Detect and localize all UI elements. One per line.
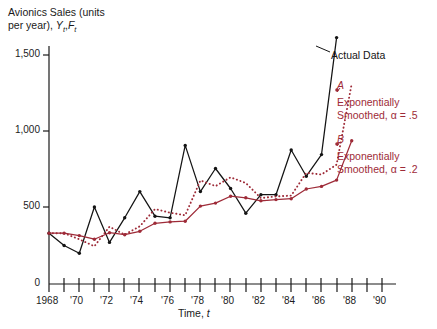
data-point [93, 238, 96, 241]
data-point [47, 232, 50, 235]
y-axis-ticks [43, 55, 49, 207]
annotation-series-a-line2: Smoothed, α = .5 [337, 109, 418, 122]
data-point [320, 185, 323, 188]
data-point [335, 178, 338, 181]
data-point [93, 205, 96, 208]
data-point [305, 175, 308, 178]
data-point [153, 222, 156, 225]
x-tick-label-1982: '82 [252, 295, 265, 306]
x-tick-label-1986: '86 [312, 295, 325, 306]
series-actual [47, 36, 338, 255]
data-point [199, 190, 202, 193]
chart-figure: Avionics Sales (unitsper year), Yt,Ft [0, 0, 437, 329]
series-line [49, 38, 337, 254]
data-point [305, 187, 308, 190]
data-point [274, 198, 277, 201]
data-point [290, 197, 293, 200]
data-point [62, 232, 65, 235]
leader-actual-data [316, 46, 330, 52]
x-tick-label-1972: '72 [100, 295, 113, 306]
x-tick-label-1990: '90 [373, 295, 386, 306]
annotation-actual-data: Actual Data [331, 49, 385, 62]
data-point [123, 233, 126, 236]
data-point [138, 230, 141, 233]
data-point [78, 252, 81, 255]
data-point [259, 193, 262, 196]
annotation-series-b-letter: B [337, 133, 344, 145]
data-point [259, 199, 262, 202]
data-point [229, 187, 232, 190]
x-axis-title-symbol: t [207, 307, 210, 319]
x-tick-label-1988: '88 [343, 295, 356, 306]
series-line [49, 84, 352, 247]
data-point [320, 153, 323, 156]
data-point [335, 36, 338, 39]
data-point [108, 241, 111, 244]
annotation-series-b-line1: Exponentially [337, 150, 399, 163]
y-tick-label-1500: 1,500 [0, 48, 40, 59]
annotation-series-a-letter: A [337, 79, 344, 91]
annotation-series-a-line1: Exponentially [337, 96, 399, 109]
data-point [244, 212, 247, 215]
x-tick-label-1980: '80 [221, 295, 234, 306]
annotation-series-b-line2: Smoothed, α = .2 [337, 163, 418, 176]
data-point [138, 190, 141, 193]
data-point [123, 216, 126, 219]
data-point [168, 220, 171, 223]
chart-series-layer [47, 36, 353, 255]
data-point [62, 244, 65, 247]
x-tick-label-1984: '84 [282, 295, 295, 306]
data-point [184, 220, 187, 223]
y-tick-label-0: 0 [0, 277, 40, 288]
data-point [214, 201, 217, 204]
x-tick-label-1970: '70 [70, 295, 83, 306]
series-a [49, 84, 352, 247]
y-tick-label-1000: 1,000 [0, 124, 40, 135]
data-point [108, 231, 111, 234]
x-tick-label-1968: 1968 [36, 295, 58, 306]
data-point [214, 167, 217, 170]
x-axis-ticks [49, 278, 382, 292]
data-point [244, 196, 247, 199]
data-point [199, 204, 202, 207]
data-point [168, 216, 171, 219]
x-tick-label-1976: '76 [161, 295, 174, 306]
x-axis-title: Time, t [178, 307, 210, 320]
x-axis-title-text: Time, [178, 307, 207, 319]
data-point [229, 195, 232, 198]
data-point [78, 234, 81, 237]
data-point [350, 139, 353, 142]
x-tick-label-1978: '78 [191, 295, 204, 306]
data-point [184, 144, 187, 147]
data-point [153, 215, 156, 218]
y-tick-label-500: 500 [0, 200, 40, 211]
data-point [290, 148, 293, 151]
x-tick-label-1974: '74 [130, 295, 143, 306]
